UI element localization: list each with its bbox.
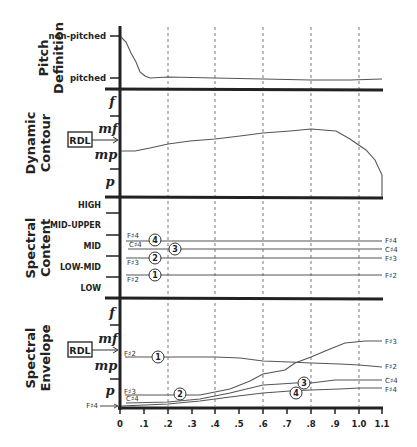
x-tick-label: 0 bbox=[117, 419, 123, 429]
y-label-mf: mf bbox=[98, 121, 120, 136]
panel-title: Spectral bbox=[23, 217, 38, 278]
y-label-pitched: pitched bbox=[70, 73, 106, 83]
note-label: F♯2 bbox=[385, 363, 397, 371]
svg-text:1: 1 bbox=[152, 271, 158, 280]
panel-title: Spectral bbox=[23, 327, 38, 388]
rdl-label: RDL bbox=[69, 345, 90, 356]
x-tick-label: .4 bbox=[210, 419, 219, 429]
note-label: F♯4 bbox=[385, 386, 397, 394]
x-tick-label: .6 bbox=[258, 419, 267, 429]
y-label-p: p bbox=[105, 174, 114, 189]
panel-spectral-content: Spectral Content HIGH MID-UPPER MID LOW-… bbox=[23, 201, 398, 293]
panel-dynamic-contour: Dynamic Contour f mf mp p RDL bbox=[23, 94, 382, 197]
y-label-p: p bbox=[105, 383, 114, 398]
y-label-high: HIGH bbox=[78, 201, 101, 210]
panel-title: Contour bbox=[38, 113, 53, 172]
y-label-mid-upper: MID-UPPER bbox=[50, 221, 101, 230]
note-label: F♯2 bbox=[385, 272, 397, 280]
rdl-label: RDL bbox=[69, 135, 90, 146]
note-label: C♯4 bbox=[129, 241, 142, 249]
x-tick-label: .3 bbox=[187, 419, 196, 429]
note-label: F♯3 bbox=[385, 255, 397, 263]
x-tick-label: .9 bbox=[330, 419, 339, 429]
svg-text:2: 2 bbox=[152, 254, 158, 263]
x-tick-label: 1.0 bbox=[351, 419, 366, 429]
x-tick-label: .7 bbox=[282, 419, 291, 429]
x-tick-label: .1 bbox=[139, 419, 148, 429]
note-label: F♯4 bbox=[385, 237, 397, 245]
panel-title: Dynamic bbox=[23, 111, 38, 174]
svg-text:3: 3 bbox=[301, 379, 307, 388]
y-label-f: f bbox=[108, 305, 117, 320]
pitch-curve bbox=[121, 37, 382, 80]
x-axis: 0 .1 .2 .3 .4 .5 .6 .7 .8 .9 1.0 1.1 bbox=[117, 408, 390, 429]
note-label: F♯3 bbox=[127, 259, 139, 267]
note-label: F♯2 bbox=[127, 276, 139, 284]
y-label-low: LOW bbox=[81, 284, 102, 293]
note-label: C♯4 bbox=[385, 246, 398, 254]
note-label: F♯4 bbox=[127, 232, 139, 240]
y-label-mp: mp bbox=[95, 358, 118, 373]
y-label-mid: MID bbox=[83, 242, 101, 251]
chart-canvas: Pitch Definition non-pitched pitched Dyn… bbox=[0, 0, 417, 447]
y-label-mp: mp bbox=[95, 147, 118, 162]
panel-title: Envelope bbox=[38, 324, 53, 391]
axes-frame bbox=[105, 26, 383, 410]
dynamic-curve bbox=[121, 129, 382, 197]
x-tick-label: .8 bbox=[306, 419, 315, 429]
x-tick-label: .2 bbox=[163, 419, 172, 429]
panel-spectral-envelope: Spectral Envelope f mf mp p RDL F♯4 F♯2 … bbox=[23, 305, 398, 410]
envelope-fs4 bbox=[121, 388, 382, 406]
y-label-non-pitched: non-pitched bbox=[49, 31, 106, 41]
panel-pitch-definition: Pitch Definition non-pitched pitched bbox=[36, 22, 382, 94]
note-label: F♯3 bbox=[385, 338, 397, 346]
note-label: C♯4 bbox=[385, 377, 398, 385]
y-label-f: f bbox=[108, 94, 117, 109]
svg-text:4: 4 bbox=[152, 236, 158, 245]
x-tick-label: .5 bbox=[234, 419, 243, 429]
svg-text:3: 3 bbox=[172, 245, 178, 254]
y-label-low-mid: LOW-MID bbox=[60, 263, 101, 272]
x-tick-label: 1.1 bbox=[374, 419, 389, 429]
note-label: F♯4 bbox=[86, 402, 98, 410]
envelope-cs4 bbox=[126, 380, 382, 403]
svg-text:1: 1 bbox=[155, 353, 161, 362]
note-label: C♯4 bbox=[126, 395, 139, 403]
svg-text:2: 2 bbox=[177, 390, 183, 399]
svg-text:4: 4 bbox=[293, 389, 299, 398]
y-label-mf: mf bbox=[98, 331, 120, 346]
panel-title: Pitch bbox=[36, 39, 51, 76]
